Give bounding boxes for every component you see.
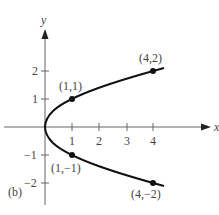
y-axis-arrow-icon (42, 29, 49, 39)
x-axis-arrow-icon (201, 124, 211, 131)
x-tick-label: 3 (124, 134, 130, 148)
point-label: (4,2) (139, 51, 162, 65)
x-tick-label: 1 (69, 134, 75, 148)
panel-label: (b) (8, 185, 22, 199)
point-4-2 (150, 68, 156, 74)
x-axis-label: x (213, 120, 219, 134)
point-label: (1,1) (59, 79, 82, 93)
x-tick-label: 4 (150, 134, 156, 148)
point-label: (1,−1) (51, 161, 81, 175)
point-1-1 (69, 96, 75, 102)
y-tick-label: −2 (24, 176, 37, 190)
y-tick-label: 1 (32, 92, 38, 106)
point-4-neg2 (150, 180, 156, 186)
y-tick-label: 2 (32, 64, 38, 78)
x-tick-label: 2 (96, 134, 102, 148)
y-tick-label: −1 (24, 148, 37, 162)
point-label: (4,−2) (131, 187, 161, 201)
parabola-chart: x y 1 2 3 4 2 1 −1 −2 (1,1) (4,2) (1,−1)… (0, 0, 219, 215)
y-axis-label: y (40, 13, 47, 27)
point-1-neg1 (69, 152, 75, 158)
